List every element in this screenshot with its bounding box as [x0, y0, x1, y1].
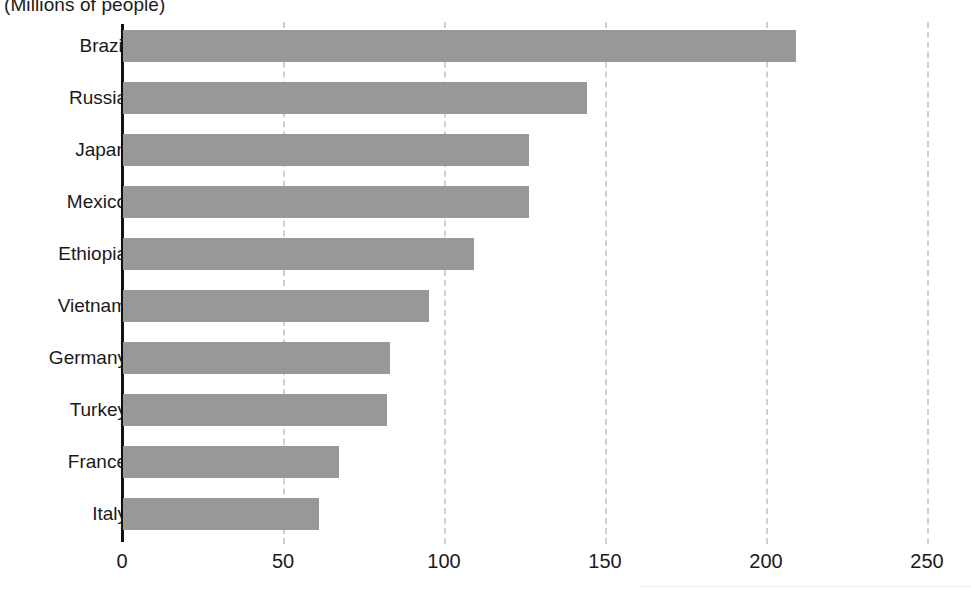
bar-row: Russia: [0, 76, 971, 128]
bar-series: BrazilRussiaJapanMexicoEthiopiaVietnamGe…: [0, 0, 971, 592]
x-tick-0: 0: [82, 549, 162, 573]
bar-row: Japan: [0, 128, 971, 180]
bar-row: Italy: [0, 492, 971, 544]
x-tick-200: 200: [726, 549, 806, 573]
x-tick-50: 50: [243, 549, 323, 573]
bar-chart: (Millions of people) BrazilRussiaJapanMe…: [0, 0, 971, 592]
bar-france: [123, 446, 339, 478]
bar-italy: [123, 498, 319, 530]
bar-brazil: [123, 30, 796, 62]
category-label-germany: Germany: [0, 342, 127, 374]
bar-russia: [123, 82, 587, 114]
scan-edge-line: [640, 586, 971, 587]
category-label-ethiopia: Ethiopia: [0, 238, 127, 270]
category-label-japan: Japan: [0, 134, 127, 166]
bar-germany: [123, 342, 390, 374]
x-tick-100: 100: [404, 549, 484, 573]
category-label-italy: Italy: [0, 498, 127, 530]
bar-row: Mexico: [0, 180, 971, 232]
category-label-france: France: [0, 446, 127, 478]
bar-japan: [123, 134, 529, 166]
bar-row: Germany: [0, 336, 971, 388]
bar-row: Brazil: [0, 24, 971, 76]
bar-mexico: [123, 186, 529, 218]
category-label-turkey: Turkey: [0, 394, 127, 426]
category-label-russia: Russia: [0, 82, 127, 114]
bar-row: Turkey: [0, 388, 971, 440]
category-label-mexico: Mexico: [0, 186, 127, 218]
bar-ethiopia: [123, 238, 474, 270]
bar-row: Vietnam: [0, 284, 971, 336]
bar-row: France: [0, 440, 971, 492]
x-tick-150: 150: [565, 549, 645, 573]
bar-vietnam: [123, 290, 429, 322]
x-tick-250: 250: [887, 549, 967, 573]
bar-row: Ethiopia: [0, 232, 971, 284]
category-label-vietnam: Vietnam: [0, 290, 127, 322]
category-label-brazil: Brazil: [0, 30, 127, 62]
bar-turkey: [123, 394, 387, 426]
